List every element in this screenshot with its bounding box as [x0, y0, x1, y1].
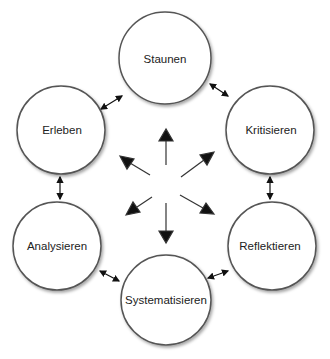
arrow-up-right-icon	[181, 160, 204, 177]
node-staunen: Staunen	[119, 12, 211, 104]
edge-erleben-staunen	[101, 96, 122, 109]
node-analysieren: Analysieren	[13, 202, 101, 290]
node-erleben: Erleben	[17, 86, 105, 174]
arrow-up-left-icon	[130, 163, 150, 175]
node-label: Systematisieren	[125, 294, 207, 306]
cycle-diagram: Staunen Kritisieren Reflektieren Systema…	[0, 0, 330, 359]
node-label: Erleben	[42, 124, 82, 136]
arrow-down-left-icon	[137, 197, 152, 207]
node-systematisieren: Systematisieren	[121, 255, 211, 345]
node-label: Staunen	[144, 53, 187, 65]
edge-systematisieren-analysieren	[100, 271, 119, 281]
node-reflektieren: Reflektieren	[228, 202, 316, 290]
edge-staunen-kritisieren	[210, 84, 228, 96]
node-label: Kritisieren	[245, 124, 296, 136]
node-kritisieren: Kritisieren	[226, 86, 314, 174]
node-label: Reflektieren	[239, 240, 300, 252]
edge-reflektieren-systematisieren	[208, 271, 228, 278]
node-label: Analysieren	[27, 240, 87, 252]
center-arrows	[120, 129, 214, 243]
arrow-down-right-icon	[180, 195, 203, 208]
